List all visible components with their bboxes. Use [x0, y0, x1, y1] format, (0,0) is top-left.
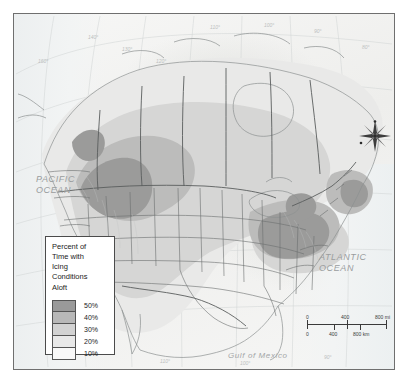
legend-label-20: 20%	[84, 338, 98, 345]
legend-item-10: 10%	[52, 348, 114, 360]
graticule-label-90-bottom: 90°	[324, 354, 332, 360]
scale-tick-end	[386, 320, 387, 329]
legend-title: Percent of Time with Icing Conditions Al…	[52, 242, 110, 293]
graticule-label-90: 90°	[314, 28, 322, 34]
legend-swatch-10	[52, 348, 76, 360]
scale-tick-mid	[347, 320, 348, 329]
legend-item-20: 20%	[52, 336, 114, 348]
graticule-label-120: 120°	[156, 58, 166, 64]
scale-label-km-800: 800 km	[353, 331, 369, 337]
map-legend: Percent of Time with Icing Conditions Al…	[45, 236, 115, 355]
scale-tick-km-mid	[334, 324, 335, 330]
graticule-label-100: 100°	[264, 22, 274, 28]
legend-label-30: 30%	[84, 326, 98, 333]
legend-title-line-1: Percent of	[52, 242, 110, 252]
scale-label-mi-400: 400	[341, 314, 349, 320]
graticule-label-110-bottom: 110°	[160, 358, 170, 364]
legend-item-40: 40%	[52, 312, 114, 324]
legend-title-line-4: Conditions	[52, 272, 110, 282]
legend-title-line-5: Aloft	[52, 283, 110, 293]
legend-swatch-40	[52, 312, 76, 324]
scale-label-mi-0: 0	[306, 314, 309, 320]
graticule-label-130: 130°	[122, 46, 132, 52]
graticule-label-160: 160°	[38, 58, 48, 64]
scale-tick-km-end	[360, 324, 361, 330]
scale-label-mi-800: 800 mi	[375, 314, 390, 320]
legend-item-30: 30%	[52, 324, 114, 336]
legend-swatch-20	[52, 336, 76, 348]
legend-title-line-2: Time with	[52, 252, 110, 262]
graticule-label-140: 140°	[88, 34, 98, 40]
graticule-label-100-bottom: 100°	[240, 360, 250, 366]
scale-tick-0	[307, 320, 308, 329]
legend-swatch-list: 50% 40% 30% 20% 10%	[52, 300, 114, 360]
legend-label-40: 40%	[84, 314, 98, 321]
legend-swatch-30	[52, 324, 76, 336]
legend-swatch-50	[52, 300, 76, 312]
legend-label-10: 10%	[84, 350, 98, 357]
graticule-label-110: 110°	[210, 24, 220, 30]
screenshot-root: PACIFIC OCEAN ATLANTIC OCEAN Gulf of Mex…	[0, 0, 410, 379]
scale-label-km-0: 0	[306, 331, 309, 337]
compass-rose-icon	[358, 119, 392, 153]
legend-title-line-3: Icing	[52, 262, 110, 272]
graticule-label-80: 80°	[362, 44, 370, 50]
legend-item-50: 50%	[52, 300, 114, 312]
legend-label-50: 50%	[84, 302, 98, 309]
map-frame: PACIFIC OCEAN ATLANTIC OCEAN Gulf of Mex…	[13, 13, 395, 370]
scale-bar: 0 400 800 mi 0 400 800 km	[307, 314, 391, 338]
scale-label-km-400: 400	[329, 331, 337, 337]
